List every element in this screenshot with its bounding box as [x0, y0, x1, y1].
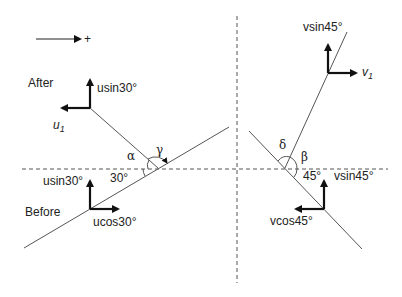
left-after-u1-label: u1: [53, 118, 65, 134]
right-before-left-label: vcos45°: [270, 214, 313, 228]
positive-direction-label: +: [84, 32, 91, 46]
right-after-up-label: vsin45°: [303, 20, 343, 34]
right-before-up-label: vsin45°: [334, 169, 374, 183]
left-before-up-label: usin30°: [43, 174, 83, 188]
right-after-v1-label: v1: [362, 65, 373, 81]
right-rebound-path: [285, 32, 347, 168]
delta-angle-label: δ: [279, 138, 286, 152]
alpha-angle-label: α: [127, 149, 135, 163]
thirty-arc: [143, 169, 145, 176]
right-incline-angle-label: 45°: [303, 169, 321, 183]
right-incline-path: [249, 131, 362, 249]
beta-angle-label: β: [301, 150, 308, 164]
left-incline-angle-label: 30°: [110, 171, 128, 185]
gamma-angle-label: γ: [156, 143, 163, 157]
fortyfive-arc: [294, 169, 297, 177]
collision-diagram: + After Before usin30° u1 usin30° ucos30…: [0, 0, 402, 297]
right-after-vectors: [328, 45, 356, 73]
alpha-arc: [147, 160, 149, 169]
left-before-right-label: ucos30°: [93, 215, 137, 229]
left-after-up-label: usin30°: [97, 81, 137, 95]
left-rebound-path: [90, 108, 158, 168]
beta-arc: [290, 157, 297, 169]
before-label: Before: [25, 205, 61, 219]
left-after-vectors: [62, 80, 90, 108]
after-label: After: [28, 76, 53, 90]
